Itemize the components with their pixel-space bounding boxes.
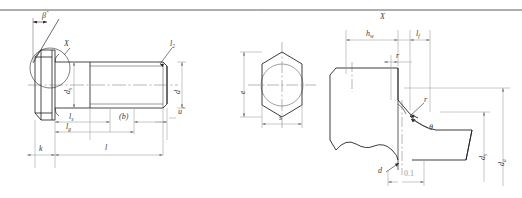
view-side-elevation: [28, 18, 178, 120]
label-bearing-dia-da: da: [498, 159, 506, 166]
label-detail-shank-ds: ds: [479, 154, 487, 160]
label-angle-beta: β″: [42, 12, 48, 20]
label-thread-length-b: (b): [119, 113, 128, 121]
label-length-lg: lg: [66, 123, 71, 131]
label-tolerance: 0.1: [404, 170, 414, 178]
detail-x-dimensions: [346, 30, 510, 186]
label-head-height-k: k: [39, 145, 43, 153]
label-nominal-dia-d: d: [378, 167, 382, 175]
label-fillet-length-lf: lf: [416, 30, 420, 38]
label-detail-x: X: [380, 13, 385, 21]
label-across-corners-e: e: [239, 90, 247, 94]
label-washer-face-hw: hw: [366, 30, 374, 38]
label-length-ls: ls: [69, 113, 73, 121]
label-radius-r: r: [396, 52, 399, 60]
label-diameter-d: d: [174, 90, 182, 94]
label-radius-leader-r: r: [424, 96, 427, 104]
hexagon-dimensions: [240, 52, 302, 128]
view-detail-x: [330, 62, 472, 175]
drawing-canvas: [0, 0, 522, 198]
label-leader-l2: l2: [170, 40, 175, 48]
label-detail-circle-x: X: [64, 40, 69, 48]
side-view-dimensions: [27, 62, 186, 168]
label-chamfer-u: u″: [178, 108, 184, 116]
label-across-flats-s: s: [279, 114, 282, 122]
label-angle-leader: θ: [429, 124, 433, 132]
drawing-sheet: β″ X ds d ls lg (b) l k u″ l2 e s X hw l…: [0, 0, 522, 198]
label-shank-diameter-ds: ds: [64, 88, 72, 94]
label-total-length-l: l: [105, 144, 107, 152]
